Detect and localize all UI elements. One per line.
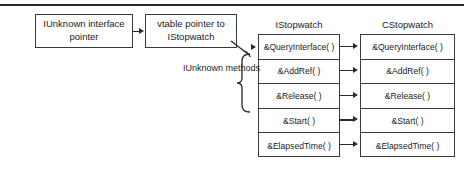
connector-iunknown-to-vtable-arrowhead bbox=[139, 28, 144, 34]
vtable-row: &AddRef( ) bbox=[259, 60, 339, 85]
connector-vtable-arrowhead bbox=[251, 44, 256, 50]
vtable-row: &ElapsedTime( ) bbox=[361, 133, 454, 158]
vtable-row: &AddRef( ) bbox=[361, 60, 454, 85]
brace-iunknown-methods bbox=[236, 53, 254, 113]
node-vtable-pointer-to-istopwatch: vtable pointer to IStopwatch bbox=[145, 14, 237, 48]
node-iunknown-interface-pointer: IUnknown interface pointer bbox=[35, 14, 133, 48]
row-connector-line-3 bbox=[340, 119, 354, 120]
vtable-istopwatch: &QueryInterface( ) &AddRef( ) &Release( … bbox=[258, 34, 340, 157]
column-header-cstopwatch: CStopwatch bbox=[360, 19, 455, 30]
label-iunknown-methods: IUnknown methods bbox=[183, 62, 235, 74]
row-connector-arrowhead-2 bbox=[353, 92, 358, 98]
vtable-row: &Release( ) bbox=[259, 84, 339, 109]
vtable-row: &Start( ) bbox=[361, 109, 454, 134]
vtable-row: &ElapsedTime( ) bbox=[259, 133, 339, 158]
vtable-row: &Release( ) bbox=[361, 84, 454, 109]
row-connector-line-4 bbox=[340, 144, 354, 145]
vtable-row: &QueryInterface( ) bbox=[259, 35, 339, 60]
row-connector-line-2 bbox=[340, 95, 354, 96]
row-connector-arrowhead-1 bbox=[353, 67, 358, 73]
row-connector-arrowhead-4 bbox=[353, 141, 358, 147]
column-header-istopwatch: IStopwatch bbox=[258, 19, 340, 30]
vtable-row: &QueryInterface( ) bbox=[361, 35, 454, 60]
row-connector-arrowhead-3 bbox=[353, 116, 358, 122]
top-divider-rule bbox=[0, 4, 464, 6]
row-connector-line-1 bbox=[340, 70, 354, 71]
vtable-row: &Start( ) bbox=[259, 109, 339, 134]
vtable-cstopwatch: &QueryInterface( ) &AddRef( ) &Release( … bbox=[360, 34, 455, 157]
row-connector-line-0 bbox=[340, 46, 354, 47]
diagram-canvas: IUnknown interface pointer vtable pointe… bbox=[0, 0, 464, 170]
row-connector-arrowhead-0 bbox=[353, 43, 358, 49]
